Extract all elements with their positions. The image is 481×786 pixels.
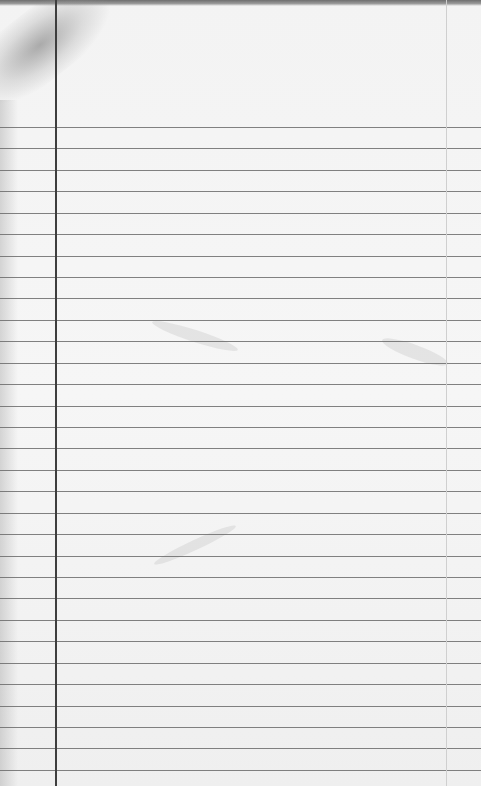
ruled-line xyxy=(0,320,481,321)
ruled-line xyxy=(0,234,481,235)
ruled-line xyxy=(0,727,481,728)
ruled-line xyxy=(0,384,481,385)
paper-crease xyxy=(380,333,451,370)
ruled-line xyxy=(0,684,481,685)
corner-shadow xyxy=(0,0,125,122)
paper-crease xyxy=(150,316,239,355)
right-margin-line xyxy=(446,0,447,786)
ruled-line xyxy=(0,470,481,471)
ruled-line xyxy=(0,256,481,257)
ruled-line xyxy=(0,427,481,428)
ruled-line xyxy=(0,341,481,342)
ruled-line xyxy=(0,663,481,664)
ruled-line xyxy=(0,577,481,578)
ruled-line xyxy=(0,513,481,514)
ruled-line xyxy=(0,363,481,364)
ruled-line xyxy=(0,491,481,492)
notebook-page xyxy=(0,0,481,786)
ruled-line xyxy=(0,620,481,621)
ruled-line xyxy=(0,191,481,192)
ruled-line xyxy=(0,748,481,749)
ruled-line xyxy=(0,170,481,171)
left-margin-line xyxy=(55,0,57,786)
ruled-line xyxy=(0,298,481,299)
ruled-line xyxy=(0,706,481,707)
ruled-line xyxy=(0,406,481,407)
ruled-line xyxy=(0,534,481,535)
ruled-line xyxy=(0,556,481,557)
ruled-line xyxy=(0,770,481,771)
ruled-line xyxy=(0,598,481,599)
paper-crease xyxy=(152,521,238,568)
ruled-line xyxy=(0,448,481,449)
ruled-line xyxy=(0,277,481,278)
ruled-line xyxy=(0,641,481,642)
ruled-line xyxy=(0,213,481,214)
ruled-line xyxy=(0,148,481,149)
ruled-line xyxy=(0,127,481,128)
